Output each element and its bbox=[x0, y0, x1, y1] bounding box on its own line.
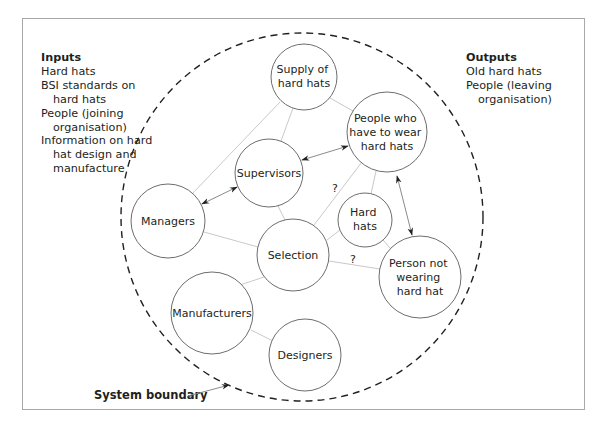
question-mark-selection-personnot: ? bbox=[350, 253, 356, 266]
link-managers-selection bbox=[204, 232, 258, 247]
label-supervisors: Supervisors bbox=[237, 167, 302, 180]
label-hard-hats: Hard hats bbox=[350, 206, 380, 233]
link-manufacturers-designers bbox=[251, 330, 273, 341]
label-person-not-wearing: Person not wearing hard hat bbox=[389, 257, 451, 298]
link-selection-manufacturers bbox=[240, 277, 264, 285]
link-people-hardhats bbox=[371, 171, 376, 194]
question-mark-people-selection: ? bbox=[332, 182, 338, 195]
system-map: Supply of hard hats People who have to w… bbox=[0, 0, 594, 431]
label-designers: Designers bbox=[278, 349, 333, 362]
link-supply-supervisors bbox=[281, 108, 293, 141]
label-supply: Supply of hard hats bbox=[276, 63, 331, 90]
arrow-managers-supervisors bbox=[202, 187, 237, 204]
link-hardhats-selection bbox=[327, 230, 340, 240]
arrow-supervisors-people bbox=[302, 146, 348, 160]
link-supervisors-selection bbox=[278, 206, 285, 220]
link-supply-people bbox=[330, 98, 353, 111]
label-managers: Managers bbox=[141, 215, 195, 228]
link-hardhats-personnot bbox=[383, 240, 390, 248]
arrow-people-personnot bbox=[397, 176, 412, 235]
label-manufacturers: Manufacturers bbox=[172, 307, 252, 320]
label-selection: Selection bbox=[268, 249, 319, 262]
arrow-boundary-pointer bbox=[188, 385, 229, 396]
